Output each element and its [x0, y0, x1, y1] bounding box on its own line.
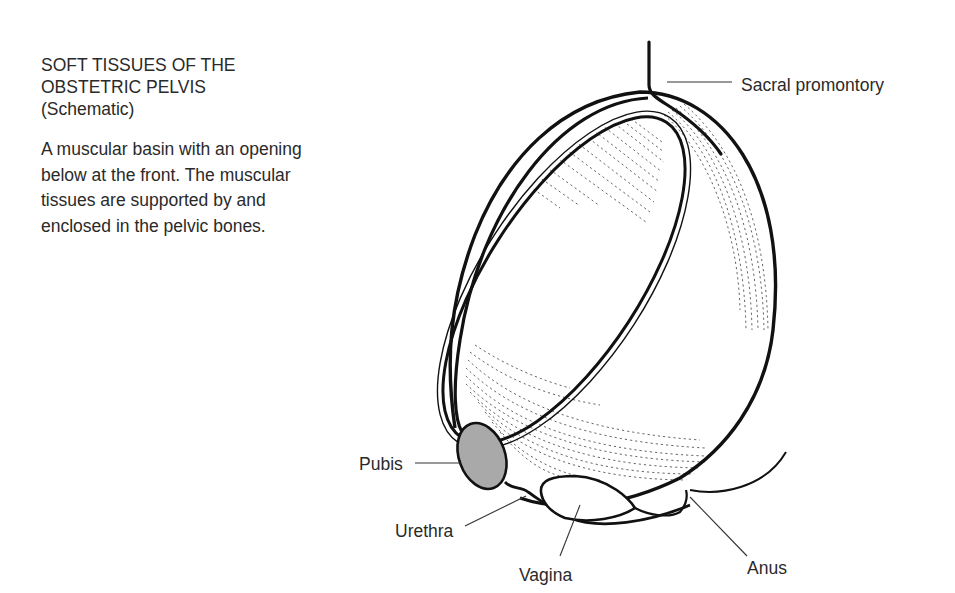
pelvic-inlet-rim — [397, 80, 731, 479]
label-sacral-promontory: Sacral promontory — [741, 75, 884, 95]
leader-line-anus — [690, 497, 747, 556]
label-vagina: Vagina — [519, 565, 572, 585]
vagina-outline — [541, 476, 635, 520]
label-urethra: Urethra — [395, 521, 453, 541]
label-anus: Anus — [747, 558, 787, 578]
label-pubis: Pubis — [359, 454, 403, 474]
leader-line-urethra — [465, 496, 526, 526]
